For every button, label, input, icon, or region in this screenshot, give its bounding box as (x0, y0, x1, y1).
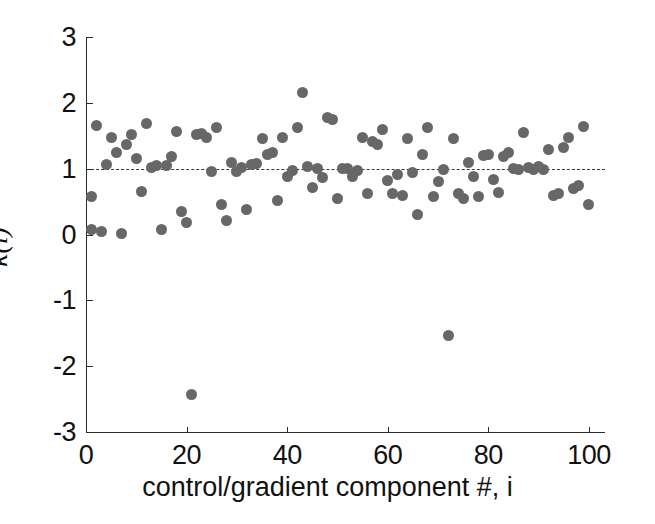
x-axis-label: control/gradient component #, i (0, 472, 655, 503)
x-tick-label-40: 40 (273, 440, 302, 471)
data-point (503, 147, 514, 158)
data-point (166, 151, 177, 162)
x-tick-label-60: 60 (373, 440, 402, 471)
data-point (317, 172, 328, 183)
data-point (136, 186, 147, 197)
x-tick-label-80: 80 (474, 440, 503, 471)
data-point (91, 120, 102, 131)
data-point (86, 191, 97, 202)
data-point (221, 215, 232, 226)
y-tick-label--3: -3 (53, 417, 76, 448)
x-tick-100 (589, 427, 590, 433)
x-tick-60 (388, 427, 389, 433)
data-point (257, 133, 268, 144)
x-tick-label-0: 0 (79, 440, 94, 471)
x-axis-line (86, 432, 605, 433)
x-tick-40 (287, 427, 288, 433)
data-point (433, 176, 444, 187)
data-point (131, 153, 142, 164)
x-tick-80 (488, 427, 489, 433)
data-point (438, 164, 449, 175)
data-point (483, 149, 494, 160)
y-tick-3 (87, 37, 93, 38)
data-point (121, 139, 132, 150)
data-point (468, 171, 479, 182)
data-point (493, 187, 504, 198)
data-point (86, 224, 97, 235)
data-point (372, 139, 383, 150)
y-tick-2 (87, 103, 93, 104)
data-point (563, 132, 574, 143)
data-point (111, 147, 122, 158)
data-point (201, 132, 212, 143)
data-point (267, 147, 278, 158)
data-point (101, 159, 112, 170)
data-point (272, 195, 283, 206)
data-point (332, 193, 343, 204)
data-point (126, 129, 137, 140)
data-point (287, 165, 298, 176)
data-point (463, 157, 474, 168)
y-axis-label: κ(i) (0, 227, 14, 267)
y-tick-label--2: -2 (53, 351, 76, 382)
y-tick--2 (87, 366, 93, 367)
y-tick-label-0: 0 (61, 219, 76, 250)
data-point (458, 193, 469, 204)
data-point (171, 126, 182, 137)
y-tick--1 (87, 300, 93, 301)
x-tick-label-100: 100 (567, 440, 611, 471)
y-tick--3 (87, 432, 93, 433)
data-point (106, 132, 117, 143)
data-point (448, 133, 459, 144)
data-point (538, 164, 549, 175)
data-point (307, 182, 318, 193)
x-tick-0 (86, 427, 87, 433)
data-point (176, 206, 187, 217)
data-point (96, 226, 107, 237)
data-point (116, 228, 127, 239)
y-tick-label-2: 2 (61, 87, 76, 118)
data-point (518, 127, 529, 138)
data-point (186, 389, 197, 400)
data-point (277, 132, 288, 143)
data-point (443, 330, 454, 341)
y-axis-label-text: κ(i) (0, 227, 13, 267)
scatter-plot-figure: -3-2-10123 020406080100 κ(i) control/gra… (0, 0, 655, 524)
y-tick-label-3: 3 (61, 22, 76, 53)
x-tick-label-20: 20 (172, 440, 201, 471)
data-point (292, 122, 303, 133)
y-tick-label--1: -1 (53, 285, 76, 316)
data-point (216, 199, 227, 210)
data-point (428, 191, 439, 202)
x-tick-20 (187, 427, 188, 433)
data-point (397, 190, 408, 201)
y-tick-label-1: 1 (61, 153, 76, 184)
y-tick-1 (87, 169, 93, 170)
